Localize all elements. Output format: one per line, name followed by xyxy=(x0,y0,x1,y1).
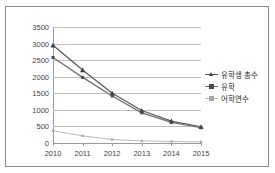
y-tick-label: 0 xyxy=(45,139,49,148)
series-line xyxy=(53,45,201,127)
data-point xyxy=(200,126,203,129)
square-marker-icon xyxy=(205,82,218,91)
series-3 xyxy=(52,130,202,143)
x-tick-mark xyxy=(53,143,54,146)
y-tick-label: 3500 xyxy=(32,23,49,32)
data-point xyxy=(52,56,55,59)
x-tick-label: 2010 xyxy=(45,149,62,158)
data-point xyxy=(170,121,173,124)
x-tick-label: 2014 xyxy=(163,149,180,158)
x-tick-mark xyxy=(171,143,172,146)
plot-area: 0500100015002000250030003500 20102011201… xyxy=(53,27,201,143)
legend-label: 어학연수 xyxy=(221,93,249,104)
x-tick-mark xyxy=(201,143,202,146)
y-tick-label: 1500 xyxy=(32,89,49,98)
x-tick-mark xyxy=(142,143,143,146)
triangle-marker-icon xyxy=(205,70,218,79)
legend-item-1[interactable]: 유학생 총수 xyxy=(205,69,273,80)
y-tick-label: 2000 xyxy=(32,72,49,81)
x-tick-label: 2013 xyxy=(133,149,150,158)
x-tick-label: 2015 xyxy=(193,149,210,158)
x-tick-label: 2012 xyxy=(104,149,121,158)
series-layer xyxy=(53,27,201,143)
data-point xyxy=(81,135,83,137)
y-tick-label: 1000 xyxy=(32,105,49,114)
data-point xyxy=(141,140,143,142)
series-line xyxy=(53,57,201,127)
y-tick-label: 500 xyxy=(36,122,49,131)
legend-label: 유학생 총수 xyxy=(221,69,258,80)
x-tick-mark xyxy=(83,143,84,146)
data-point xyxy=(140,111,143,114)
legend-item-3[interactable]: 어학연수 xyxy=(205,93,273,104)
data-point xyxy=(50,43,55,48)
data-point xyxy=(52,130,54,132)
data-point xyxy=(111,138,113,140)
data-point xyxy=(170,140,172,142)
x-tick-label: 2011 xyxy=(75,149,91,158)
x-tick-mark xyxy=(112,143,113,146)
y-tick-label: 3000 xyxy=(32,39,49,48)
chart-figure: · ··· ·· ··· 050010001500200025003000350… xyxy=(0,0,275,173)
data-point xyxy=(111,94,114,97)
legend-item-2[interactable]: 유학 xyxy=(205,81,273,92)
chart-legend: 유학생 총수유학어학연수 xyxy=(205,69,273,105)
gridline xyxy=(53,143,201,144)
legend-label: 유학 xyxy=(221,81,235,92)
top-cropped-text: · ··· ·· ··· xyxy=(150,0,245,5)
y-tick-label: 2500 xyxy=(32,56,49,65)
series-1 xyxy=(50,43,203,129)
square-marker-icon xyxy=(205,94,218,103)
data-point xyxy=(81,76,84,79)
series-line xyxy=(53,131,201,142)
chart-frame: 0500100015002000250030003500 20102011201… xyxy=(5,6,269,167)
data-point xyxy=(200,141,202,143)
series-2 xyxy=(52,56,203,129)
